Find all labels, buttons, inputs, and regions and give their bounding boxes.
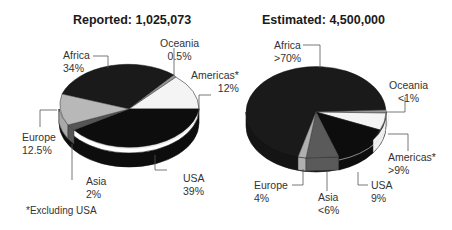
label-name: Africa: [274, 39, 301, 52]
label-value: 39%: [183, 185, 205, 198]
left-pie: [59, 64, 199, 167]
right-label-europe: Europe 4%: [254, 179, 288, 205]
left-chart-title: Reported: 1,025,073: [73, 13, 191, 27]
label-name: Europe: [254, 179, 288, 192]
label-value: >70%: [274, 52, 301, 65]
left-label-americas: Americas* 12%: [191, 69, 239, 95]
left-label-oceania: Oceania 0.5%: [160, 37, 199, 63]
right-label-usa: USA 9%: [371, 179, 393, 205]
label-value: 12.5%: [22, 144, 56, 157]
label-value: >9%: [388, 164, 436, 177]
label-name: USA: [371, 179, 393, 192]
label-name: Africa: [63, 49, 90, 62]
right-chart-title: Estimated: 4,500,000: [262, 13, 385, 27]
footnote: *Excluding USA: [26, 205, 97, 216]
right-label-americas: Americas* >9%: [388, 151, 436, 177]
label-value: 34%: [63, 62, 90, 75]
label-name: Americas*: [191, 69, 239, 82]
left-label-africa: Africa 34%: [63, 49, 90, 75]
label-value: 4%: [254, 192, 288, 205]
label-value: <1%: [389, 92, 428, 105]
left-label-usa: USA 39%: [183, 172, 205, 198]
right-pie: [246, 67, 389, 172]
label-name: Oceania: [389, 79, 428, 92]
label-value: <6%: [318, 204, 339, 217]
label-name: USA: [183, 172, 205, 185]
right-label-africa: Africa >70%: [274, 39, 301, 65]
right-label-oceania: Oceania <1%: [389, 79, 428, 105]
label-value: 2%: [86, 188, 106, 201]
label-value: 12%: [191, 82, 239, 95]
left-label-asia: Asia 2%: [86, 175, 106, 201]
label-name: Oceania: [160, 37, 199, 50]
label-name: Europe: [22, 131, 56, 144]
right-label-asia: Asia <6%: [318, 191, 339, 217]
label-value: 0.5%: [160, 50, 199, 63]
label-value: 9%: [371, 192, 393, 205]
left-label-europe: Europe 12.5%: [22, 131, 56, 157]
label-name: Asia: [318, 191, 339, 204]
label-name: Americas*: [388, 151, 436, 164]
label-name: Asia: [86, 175, 106, 188]
